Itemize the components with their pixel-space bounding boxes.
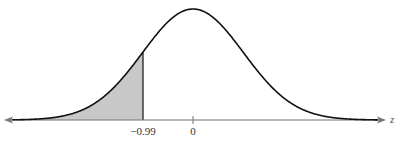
axis-label-z: z [389,113,395,125]
normal-distribution-figure: −0.99 0 z [0,0,397,144]
tick-label-neg-0-99: −0.99 [130,125,156,137]
tick-label-zero: 0 [190,125,196,137]
normal-curve [12,9,378,120]
shaded-left-tail [12,52,143,120]
